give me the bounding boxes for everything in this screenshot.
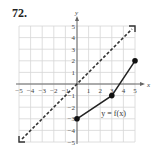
- y-tick-label: −5: [68, 139, 76, 147]
- x-tick-label: −5: [15, 87, 23, 95]
- y-tick-label: 5: [72, 23, 76, 31]
- x-tick-label: 4: [122, 87, 126, 95]
- x-tick-label: −4: [27, 87, 35, 95]
- y-tick-label: 3: [72, 46, 76, 54]
- y-tick-label: −2: [68, 104, 76, 112]
- x-tick-label: 1: [87, 87, 91, 95]
- y-tick-label: 1: [72, 69, 76, 77]
- y-tick-label: −4: [68, 127, 76, 135]
- function-graph: xy −5−4−3−2−11234554321−1−2−3−4−5 y = f(…: [0, 0, 155, 155]
- x-axis-label: x: [146, 81, 151, 89]
- closed-dot-icon: [132, 58, 138, 64]
- x-tick-label: −2: [50, 87, 58, 95]
- y-tick-label: 2: [72, 57, 76, 65]
- y-tick-label: 4: [72, 34, 76, 42]
- x-axis-arrow-icon: [140, 82, 145, 86]
- y-axis-label: y: [74, 9, 79, 17]
- x-tick-label: 2: [98, 87, 102, 95]
- closed-dot-icon: [109, 93, 115, 99]
- annotations: y = f(x): [101, 109, 126, 118]
- function-label: y = f(x): [101, 109, 126, 118]
- closed-dot-icon: [74, 116, 80, 122]
- x-tick-label: −3: [38, 87, 46, 95]
- x-tick-label: 5: [133, 87, 137, 95]
